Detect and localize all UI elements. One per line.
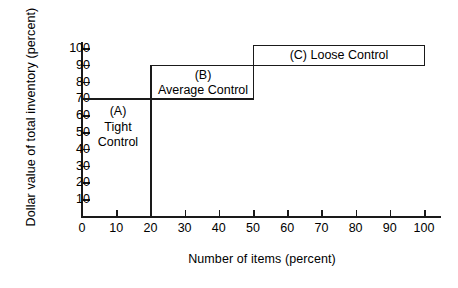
zone-b-bottom-edge bbox=[151, 98, 254, 99]
zone-c-annotation: (C) Loose Control bbox=[253, 47, 425, 62]
zone-a-line-3: Control bbox=[86, 135, 150, 151]
y-tick-label: 60 bbox=[54, 109, 90, 121]
y-tick-label: 80 bbox=[54, 76, 90, 88]
y-tick-label: 10 bbox=[54, 193, 90, 205]
zone-c-line-1: (C) Loose Control bbox=[253, 48, 425, 63]
y-tick-label: 20 bbox=[54, 176, 90, 188]
x-tick-label: 100 bbox=[404, 221, 444, 235]
x-axis-line bbox=[81, 216, 441, 218]
zone-b-line-2: Average Control bbox=[151, 83, 255, 98]
zone-b-line-1: (B) bbox=[151, 68, 255, 83]
zone-a-annotation: (A) Tight Control bbox=[86, 104, 150, 151]
abc-inventory-control-chart: Dollar value of total inventory (percent… bbox=[0, 0, 458, 288]
step-segment-70-percent bbox=[82, 98, 151, 99]
zone-b-annotation: (B) Average Control bbox=[151, 66, 255, 96]
zone-a-line-2: Tight bbox=[86, 120, 150, 136]
y-axis-title: Dollar value of total inventory (percent… bbox=[24, 2, 38, 232]
x-axis-title: Number of items (percent) bbox=[82, 252, 442, 266]
zone-a-line-1: (A) bbox=[86, 104, 150, 120]
zone-c-bottom-edge bbox=[253, 65, 425, 66]
y-tick-label: 40 bbox=[54, 143, 90, 155]
y-tick-label: 30 bbox=[54, 160, 90, 172]
y-tick-label: 100 bbox=[54, 42, 90, 54]
y-tick-label: 90 bbox=[54, 59, 90, 71]
y-tick-label: 50 bbox=[54, 126, 90, 138]
